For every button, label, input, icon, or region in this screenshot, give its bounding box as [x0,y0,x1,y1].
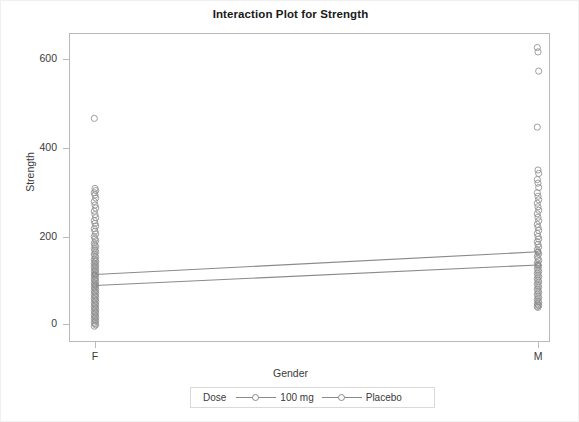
legend-marker-icon [322,393,362,403]
x-tick-mark-m [538,342,539,348]
legend-title: Dose [191,392,232,403]
legend-label: Placebo [366,392,406,403]
plot-svg [69,33,550,342]
y-tick-400: 400 [11,141,57,155]
series-line-100-mg [95,252,538,275]
data-point [536,68,542,74]
y-tick-label: 600 [11,52,57,64]
chart-figure: Interaction Plot for Strength Strength 6… [0,0,579,422]
legend[interactable]: Dose 100 mg Placebo [190,387,435,408]
x-axis-title: Gender [1,367,579,379]
legend-label: 100 mg [280,392,317,403]
scatter-points-layer [91,44,542,329]
y-tick-label: 0 [11,317,57,329]
legend-entry-placebo[interactable]: Placebo [318,392,406,403]
x-tick-mark-f [95,342,96,348]
y-tick-label: 400 [11,141,57,153]
x-tick-label-f: F [75,350,115,362]
data-point [534,124,540,130]
legend-marker-icon [236,393,276,403]
y-tick-0: 0 [11,317,57,331]
series-line-placebo [95,265,538,286]
y-tick-200: 200 [11,230,57,244]
y-tick-600: 600 [11,52,57,66]
x-tick-label-m: M [518,350,558,362]
page-title: Interaction Plot for Strength [1,8,579,20]
y-tick-label: 200 [11,230,57,242]
interaction-lines-layer [92,249,540,288]
data-point [535,49,541,55]
data-point [91,115,97,121]
legend-entry-100mg[interactable]: 100 mg [232,392,317,403]
